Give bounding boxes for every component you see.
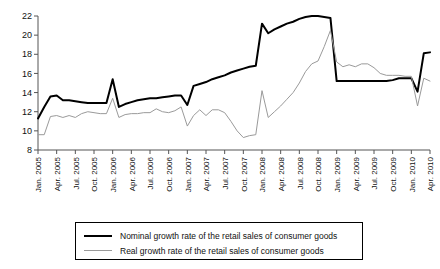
y-tick-label: 14: [22, 88, 32, 98]
y-tick-label: 16: [22, 69, 32, 79]
legend-swatch-real-icon: [84, 250, 112, 251]
x-tick-label: Apr. 2008: [277, 156, 286, 191]
series-line-nominal: [38, 16, 430, 118]
legend-label-nominal: Nominal growth rate of the retail sales …: [120, 231, 337, 241]
x-tick-label: Jan. 2005: [34, 156, 43, 192]
x-tick-label: Apr. 2009: [352, 156, 361, 191]
y-tick-label: 22: [22, 11, 32, 21]
x-tick-label: Jul. 2007: [221, 156, 230, 189]
legend-item-nominal: Nominal growth rate of the retail sales …: [84, 228, 354, 243]
chart-legend: Nominal growth rate of the retail sales …: [75, 222, 363, 260]
x-tick-label: Oct. 2007: [240, 156, 249, 191]
y-tick-label: 12: [22, 107, 32, 117]
x-tick-label: Jan. 2008: [258, 156, 267, 192]
x-tick-label: Oct. 2009: [389, 156, 398, 191]
line-chart-plot: 810121416182022Jan. 2005Apr. 2005Jul. 20…: [0, 0, 440, 215]
x-tick-label: Apr. 2007: [202, 156, 211, 191]
legend-item-real: Real growth rate of the retail sales of …: [84, 243, 354, 258]
x-tick-label: Oct. 2008: [314, 156, 323, 191]
x-tick-label: Apr. 2010: [426, 156, 435, 191]
legend-swatch-nominal-icon: [84, 235, 112, 237]
series-line-real: [38, 30, 430, 137]
legend-label-real: Real growth rate of the retail sales of …: [120, 246, 324, 256]
x-tick-label: Oct. 2005: [90, 156, 99, 191]
x-tick-label: Apr. 2005: [53, 156, 62, 191]
x-tick-label: Jul. 2009: [370, 156, 379, 189]
x-tick-label: Apr. 2006: [128, 156, 137, 191]
x-tick-label: Jan. 2010: [408, 156, 417, 192]
chart-container: 810121416182022Jan. 2005Apr. 2005Jul. 20…: [0, 0, 440, 269]
x-tick-label: Jul. 2008: [296, 156, 305, 189]
y-tick-label: 18: [22, 49, 32, 59]
x-tick-label: Jul. 2005: [72, 156, 81, 189]
x-tick-label: Jul. 2006: [146, 156, 155, 189]
x-tick-label: Jan. 2007: [184, 156, 193, 192]
y-tick-label: 8: [27, 145, 32, 155]
y-tick-label: 10: [22, 126, 32, 136]
x-tick-label: Oct. 2006: [165, 156, 174, 191]
x-tick-label: Jan. 2009: [333, 156, 342, 192]
x-tick-label: Jan. 2006: [109, 156, 118, 192]
y-tick-label: 20: [22, 30, 32, 40]
